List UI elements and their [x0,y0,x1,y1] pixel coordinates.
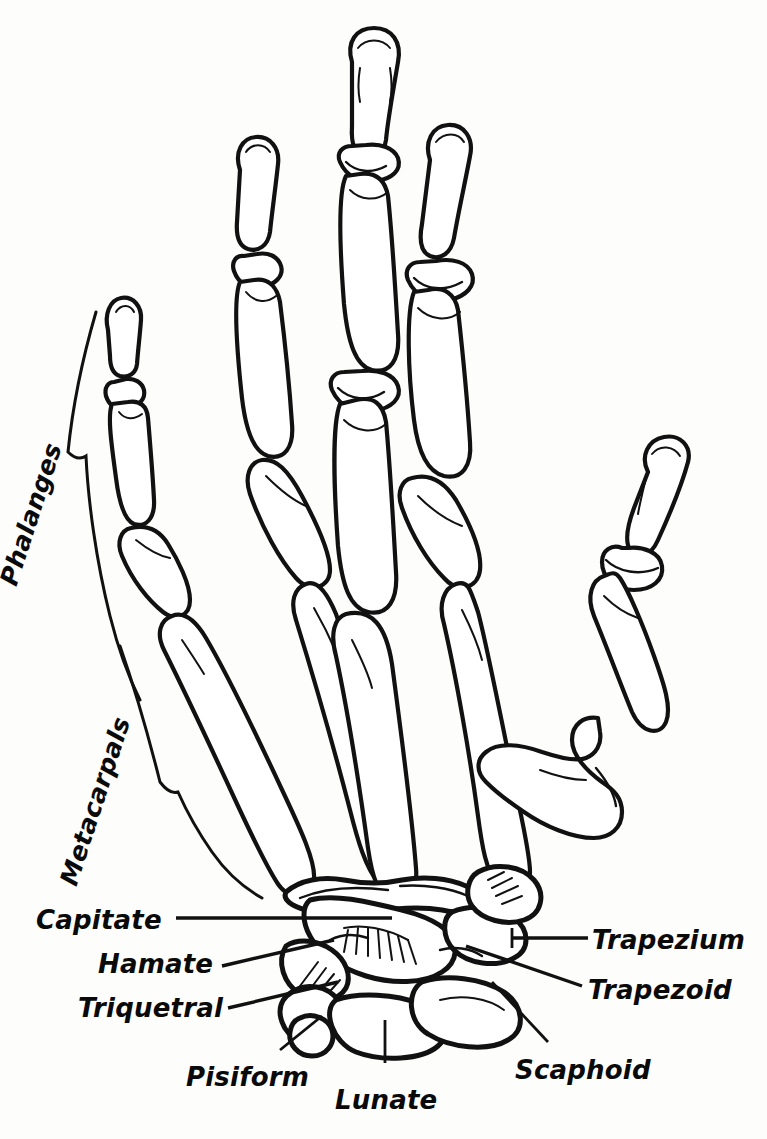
label-trapezoid: Trapezoid [588,975,732,1005]
label-pisiform: Pisiform [186,1062,309,1092]
label-capitate: Capitate [36,905,162,935]
carpal-bones [280,866,541,1058]
figure-canvas: Capitate Hamate Triquetral Pisiform Luna… [0,0,767,1139]
label-lunate: Lunate [335,1085,437,1115]
label-trapezium: Trapezium [592,925,745,955]
label-triquetral: Triquetral [78,993,223,1023]
label-hamate: Hamate [98,949,213,979]
digit-thumb [479,437,689,838]
label-scaphoid: Scaphoid [515,1055,651,1085]
